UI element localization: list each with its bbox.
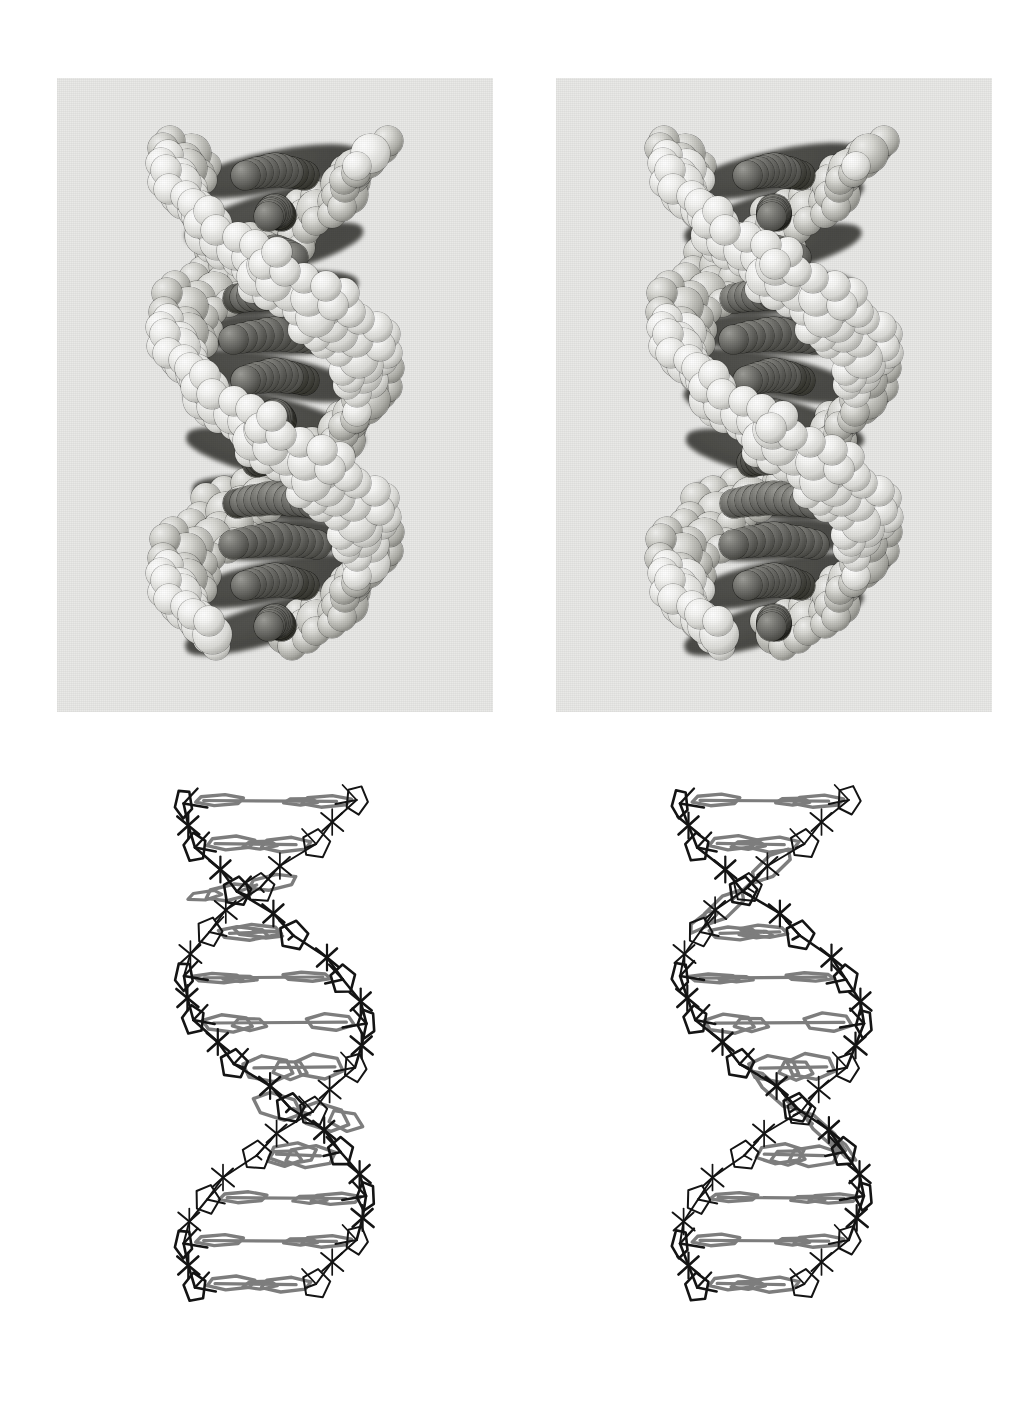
base-pair-hydrogen-bond <box>700 800 829 801</box>
base-atom-sphere <box>254 612 283 641</box>
base-pair-hydrogen-bond <box>204 977 323 978</box>
cpk-stage-right <box>556 78 992 712</box>
backbone-atom-sphere <box>194 606 224 636</box>
sugar-phosphate-backbone-group <box>672 785 872 1300</box>
base-pair-hydrogen-bond <box>700 977 826 978</box>
base-atom-sphere <box>219 325 248 354</box>
base-pair-hydrogen-bond <box>700 1240 829 1241</box>
base-pair-hydrogen-bond <box>215 1284 296 1285</box>
backbone-atom-sphere <box>311 271 341 301</box>
strand-one-glycosidic-bond <box>748 888 754 892</box>
space-filling-right-eye-view <box>556 78 992 712</box>
base-atom-sphere <box>757 202 786 231</box>
strand-one-glycosidic-bond <box>209 932 226 936</box>
backbone-atom-sphere <box>842 152 870 180</box>
sugar-phosphate-backbone-group <box>175 785 374 1301</box>
base-pair-hydrogen-bond <box>277 1154 321 1156</box>
base-pair-hydrogen-bond <box>715 1022 844 1023</box>
strand-two-glycosidic-bond <box>237 892 247 896</box>
base-pair-hydrogen-bond <box>717 1283 784 1284</box>
base-pair-hydrogen-bond <box>254 1067 335 1068</box>
wireframe-left-eye-view <box>75 742 475 1342</box>
strand-two-c5-bond <box>744 1141 758 1156</box>
base-atom-sphere <box>231 571 260 600</box>
strand-one-glycosidic-bond <box>740 1064 748 1068</box>
wireframe-svg-right <box>572 742 972 1342</box>
strand-two-c5-bond <box>257 1141 271 1156</box>
base-pair-hydrogen-bond <box>229 932 273 934</box>
strand-two-glycosidic-bond <box>257 1156 262 1160</box>
base-atom-sphere <box>719 325 748 354</box>
figure-sheet <box>0 0 1035 1412</box>
base-pair-hydrogen-bond <box>213 1022 346 1023</box>
base-atom-sphere <box>231 161 260 190</box>
space-filling-left-eye-view <box>57 78 493 712</box>
strand-two-glycosidic-bond <box>744 1156 751 1160</box>
base-atom-sphere <box>719 530 748 559</box>
backbone-atom-sphere <box>262 237 292 267</box>
backbone-atom-sphere <box>760 249 790 279</box>
wireframe-svg-left <box>75 742 475 1342</box>
wireframe-right-eye-view <box>572 742 972 1342</box>
base-atom-sphere <box>254 202 283 231</box>
base-atom-sphere <box>733 571 762 600</box>
cpk-stage-left <box>57 78 493 712</box>
base-pair-hydrogen-bond <box>204 1241 337 1242</box>
base-pair-hydrogen-bond <box>760 1067 827 1068</box>
backbone-atom-sphere <box>756 413 786 443</box>
backbone-atom-sphere <box>703 606 733 636</box>
base-pair-group <box>689 794 859 1292</box>
backbone-atom-sphere <box>307 435 337 465</box>
base-atom-sphere <box>757 612 786 641</box>
base-pair-hydrogen-bond <box>764 1154 824 1155</box>
base-pair-hydrogen-bond <box>227 1198 346 1199</box>
base-pair-hydrogen-bond <box>204 801 337 802</box>
backbone-atom-sphere <box>343 152 371 180</box>
base-atom-sphere <box>733 161 762 190</box>
base-pair-hydrogen-bond <box>215 844 296 845</box>
strand-two-glycosidic-bond <box>793 936 800 940</box>
base-atom-sphere <box>219 530 248 559</box>
base-pair-hydrogen-bond <box>720 932 780 933</box>
base-pair-hydrogen-bond <box>718 1197 844 1198</box>
base-pair-hydrogen-bond <box>717 843 784 844</box>
